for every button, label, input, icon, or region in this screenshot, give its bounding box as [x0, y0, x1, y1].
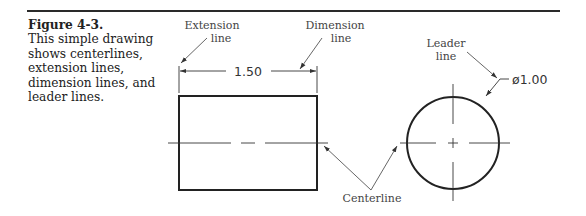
- callout-leader-line-1: Leader: [426, 37, 466, 50]
- callout-centerline: Centerline: [343, 192, 402, 205]
- callout-extension-line-2: line: [211, 32, 232, 45]
- callout-dimension-line-1: Dimension: [305, 19, 364, 32]
- callout-arrow-centerline-left: [324, 146, 371, 190]
- callout-leader-line-2: line: [436, 50, 457, 63]
- callout-arrow-dimension: [300, 38, 322, 69]
- callout-arrow-leader: [467, 52, 497, 78]
- callout-arrow-centerline-right: [371, 146, 397, 190]
- technical-drawing: 1.50 ø1.00 Extension line Dimension line…: [0, 0, 586, 216]
- diameter-leader: [486, 79, 509, 96]
- callout-arrow-extension: [181, 38, 207, 63]
- dimension-value-linear: 1.50: [234, 64, 262, 79]
- callout-dimension-line-2: line: [331, 32, 352, 45]
- dimension-value-diameter: ø1.00: [512, 72, 548, 87]
- callout-extension-line-1: Extension: [184, 19, 239, 32]
